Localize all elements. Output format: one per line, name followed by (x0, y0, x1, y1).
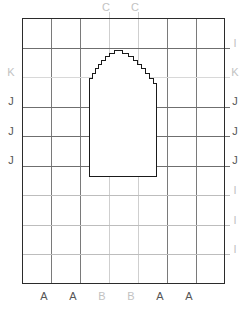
right-label-i-4: I (228, 244, 242, 255)
bottom-label-a-1: A (37, 291, 51, 302)
bottom-label-a-2: A (66, 291, 80, 302)
right-label-i-1: I (228, 38, 242, 49)
bottom-label-b-2: B (124, 291, 138, 302)
bottom-label-a-4: A (182, 291, 196, 302)
left-label-j-1: J (4, 96, 18, 107)
right-label-k: K (228, 67, 242, 78)
stepped-arch-shape (90, 51, 157, 177)
top-label-c-1: C (99, 2, 113, 13)
left-label-j-2: J (4, 126, 18, 137)
right-label-i-2: I (228, 185, 242, 196)
bottom-label-b-1: B (95, 291, 109, 302)
left-label-j-3: J (4, 155, 18, 166)
bottom-label-a-3: A (153, 291, 167, 302)
right-label-j-1: J (228, 96, 242, 107)
top-label-c-2: C (128, 2, 142, 13)
grid-and-shape-svg (0, 0, 245, 311)
right-label-j-3: J (228, 155, 242, 166)
right-label-j-2: J (228, 126, 242, 137)
right-label-i-3: I (228, 215, 242, 226)
diagram-canvas: C C K J J J I K J J J I I I A A B B A A (0, 0, 245, 311)
left-label-k: K (4, 67, 18, 78)
